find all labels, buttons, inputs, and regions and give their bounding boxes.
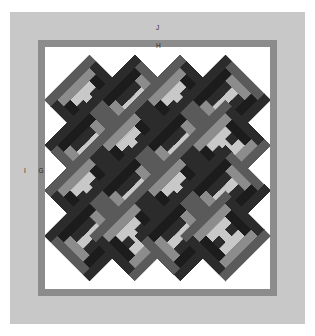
quilt-field (45, 47, 270, 289)
label-I: I (24, 168, 26, 175)
quilt-diagram-page: J H I G (0, 0, 315, 336)
quilt-pattern-svg (45, 47, 270, 289)
label-J: J (156, 25, 159, 32)
label-G: G (39, 168, 44, 175)
label-H: H (156, 43, 161, 50)
